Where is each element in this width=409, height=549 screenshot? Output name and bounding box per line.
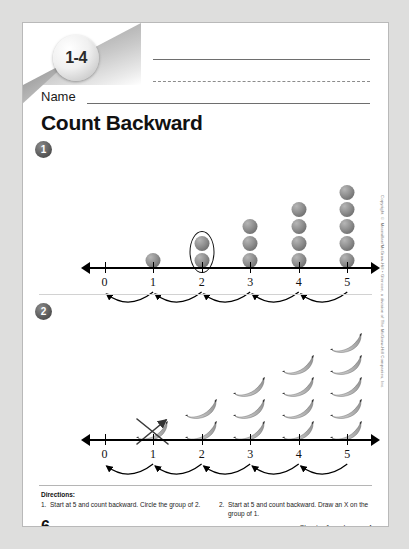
lesson-badge: 1-4	[53, 35, 99, 81]
number-line-tick	[250, 262, 251, 273]
number-line-tick	[105, 434, 106, 445]
lesson-label: Lesson 4	[344, 524, 372, 527]
axis-arrow-right-icon	[371, 434, 380, 446]
directions-heading: Directions:	[41, 491, 75, 498]
exercise-2: 2 012345	[23, 303, 388, 468]
number-line-axis	[89, 439, 373, 441]
banana	[330, 377, 364, 401]
hop-arrow	[155, 464, 202, 474]
direction-item-1: 1. Start at 5 and count backward. Circle…	[41, 500, 206, 509]
counter-chip	[243, 219, 258, 234]
banana	[330, 355, 364, 379]
chapter-label: Chapter 1	[299, 524, 330, 527]
direction-number: 1.	[41, 500, 46, 509]
number-line-tick	[347, 434, 348, 445]
counter-chip	[340, 219, 355, 234]
name-rule	[87, 103, 370, 104]
direction-item-2: 2. Start at 5 and count backward. Draw a…	[219, 500, 384, 519]
counter-chip	[291, 219, 306, 234]
header-rule-solid-top	[153, 59, 370, 60]
name-label: Name	[41, 89, 76, 104]
hop-arrow	[252, 464, 299, 474]
number-line-tick	[250, 434, 251, 445]
exercise-1: 1 012345	[23, 141, 388, 296]
banana	[185, 399, 219, 423]
number-line-tick	[153, 262, 154, 273]
hop-arrow	[301, 464, 348, 474]
number-line-tick	[153, 434, 154, 445]
hop-arrow	[107, 464, 154, 474]
direction-text: Start at 5 and count backward. Draw an X…	[219, 500, 384, 519]
banana	[330, 399, 364, 423]
counter-chip	[340, 202, 355, 217]
exercise-number-badge: 1	[35, 141, 52, 158]
copyright-notice: Copyright © Macmillan/McGraw-Hill • Glen…	[380, 195, 385, 389]
header-rule-dashed	[153, 81, 370, 82]
worksheet-page: 1-4 Name Count Backward 1 012345 2 01234…	[22, 22, 389, 527]
axis-arrow-left-icon	[81, 434, 90, 446]
counter-chip	[291, 236, 306, 251]
footer-rule	[39, 485, 372, 486]
number-line-axis	[89, 267, 373, 269]
counter-chip	[291, 202, 306, 217]
section-divider	[39, 294, 372, 295]
banana	[282, 377, 316, 401]
number-line-tick	[299, 434, 300, 445]
number-line-tick	[202, 434, 203, 445]
number-line-tick	[347, 262, 348, 273]
direction-number: 2.	[219, 500, 224, 509]
banana	[233, 377, 267, 401]
banana	[233, 399, 267, 423]
banana	[282, 355, 316, 379]
page-number: 6	[41, 518, 50, 527]
counter-chip	[340, 236, 355, 251]
number-line-tick	[105, 262, 106, 273]
hop-arrow	[204, 464, 251, 474]
exercise-number-badge: 2	[35, 303, 52, 320]
banana	[282, 399, 316, 423]
page-number-word: six	[57, 524, 68, 527]
direction-text: Start at 5 and count backward. Circle th…	[41, 500, 206, 509]
page-title: Count Backward	[41, 111, 203, 135]
axis-arrow-left-icon	[81, 262, 90, 274]
axis-arrow-right-icon	[371, 262, 380, 274]
counter-chip	[243, 236, 258, 251]
number-line-tick	[299, 262, 300, 273]
number-line-tick	[202, 262, 203, 273]
banana	[330, 333, 364, 357]
counter-chip	[340, 185, 355, 200]
